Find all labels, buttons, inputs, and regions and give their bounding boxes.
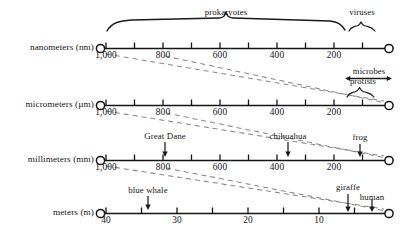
ticks-meters [106,208,355,214]
annotation-giraffe: giraffe [326,182,370,192]
tick-label-m-40: 40 [90,215,122,225]
axis-name-millimeters: millimeters (mm) [0,154,94,164]
axis-name-micrometers: micrometers (µm) [0,99,94,109]
axis-name-nanometers: nanometers (nm) [0,42,94,52]
axis-name-meters: meters (m) [0,207,94,217]
tick-label-mm-1000: 1,000 [88,162,124,172]
chihuahua-arrow [285,142,290,157]
tick-label-nm-400: 400 [259,50,295,60]
ticks-millimeters [106,155,363,161]
tick-label-nm-1000: 1,000 [88,50,124,60]
annotation-protists: protists [338,76,388,86]
tick-label-mm-600: 600 [202,162,238,172]
annotation-microbes: microbes [342,66,396,76]
tick-label-um-1000: 1,000 [88,107,124,117]
axis-end-right-micrometers [385,101,393,109]
tick-label-nm-600: 600 [202,50,238,60]
tick-label-um-600: 600 [202,107,238,117]
ticks-micrometers [106,100,363,106]
tick-label-um-200: 200 [316,107,352,117]
annotation-frog: frog [342,132,378,142]
tick-label-mm-400: 400 [259,162,295,172]
axis-end-right-nanometers [385,44,393,52]
annotation-blue-whale: blue whale [116,185,180,195]
axis-end-right-millimeters [385,156,393,164]
annotation-great-dane: Great Dane [133,131,197,141]
tick-label-mm-200: 200 [316,162,352,172]
blue-whale-arrow [145,196,150,210]
tick-label-m-20: 20 [232,215,264,225]
tick-label-um-800: 800 [145,107,181,117]
tick-label-nm-200: 200 [316,50,352,60]
axis-end-right-meters [385,209,393,217]
tick-label-m-10: 10 [303,215,335,225]
annotation-viruses: viruses [337,7,387,17]
tick-label-mm-800: 800 [145,162,181,172]
ticks-nanometers [106,43,363,49]
annotation-chihuahua: chihuahua [258,131,318,141]
annotation-human: human [350,192,394,202]
tick-label-m-30: 30 [161,215,193,225]
tick-label-nm-800: 800 [145,50,181,60]
annotation-prokaryotes: prokaryotes [186,7,266,17]
tick-label-um-400: 400 [259,107,295,117]
viruses-brace [349,22,375,31]
row-nanometers [96,12,393,53]
